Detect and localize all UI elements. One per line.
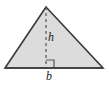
triangle-shape [5, 7, 103, 68]
height-label: h [48, 31, 54, 43]
triangle-diagram-svg [0, 0, 109, 91]
geometry-figure: h b [0, 0, 109, 91]
base-label: b [46, 70, 52, 82]
